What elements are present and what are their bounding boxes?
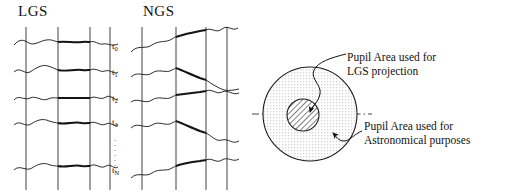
callout-lgs-projection: Pupil Area used for LGS projection — [347, 50, 436, 78]
lgs-projection-pupil-circle — [287, 99, 319, 131]
figure-root: LGS NGS — [0, 0, 508, 196]
lgs-wavefronts — [14, 40, 118, 170]
time-label-t2: t2 — [112, 94, 118, 105]
callout-lgs-line1: Pupil Area used for — [347, 51, 436, 63]
time-axis: t0 t1 t2 t3 ....... tN — [112, 28, 138, 176]
time-label-t0: t0 — [112, 42, 118, 53]
ngs-wavefronts — [131, 27, 239, 178]
time-label-tN: tN — [112, 166, 119, 177]
callout-astro-line1: Pupil Area used for — [364, 120, 453, 132]
callout-astronomical-purposes: Pupil Area used for Astronomical purpose… — [364, 119, 470, 147]
callout-lgs-line2: LGS projection — [347, 64, 436, 78]
ngs-vertical-lines — [142, 27, 227, 190]
callout-astro-line2: Astronomical purposes — [364, 133, 470, 147]
time-label-t3: t3 — [112, 118, 118, 129]
wavefront-panels-svg — [0, 0, 508, 196]
time-label-t1: t1 — [112, 68, 118, 79]
